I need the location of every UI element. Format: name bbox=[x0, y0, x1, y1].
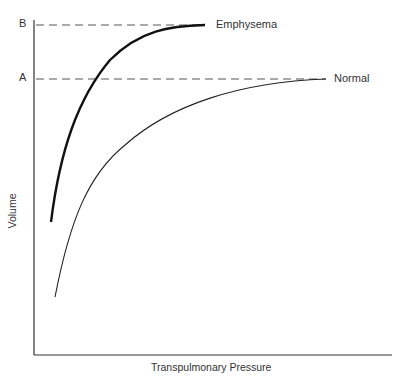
emphysema-curve bbox=[51, 25, 205, 222]
reference-label-a: A bbox=[19, 71, 26, 83]
compliance-chart bbox=[0, 0, 400, 379]
legend-emphysema: Emphysema bbox=[216, 18, 277, 30]
x-axis-label: Transpulmonary Pressure bbox=[151, 361, 271, 373]
y-axis-label: Volume bbox=[6, 193, 18, 228]
normal-curve bbox=[55, 79, 326, 297]
legend-normal: Normal bbox=[334, 72, 369, 84]
reference-label-b: B bbox=[19, 17, 26, 29]
